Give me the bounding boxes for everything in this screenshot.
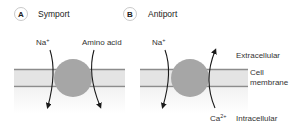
label-cell-membrane-1: Cell xyxy=(250,68,264,77)
transport-diagram: A Symport Na+ Amino acid B Antiport xyxy=(0,0,300,128)
transporter-protein-a xyxy=(54,59,92,97)
badge-b: B xyxy=(124,8,137,21)
panel-antiport: B Antiport Na+ Ca2+ xyxy=(124,8,249,124)
label-ca2: Ca2+ xyxy=(210,113,227,123)
panel-title-antiport: Antiport xyxy=(148,9,178,19)
label-intracellular: Intracellular xyxy=(236,114,278,123)
label-amino-acid: Amino acid xyxy=(82,38,122,47)
badge-a: A xyxy=(15,8,28,21)
transporter-protein-b xyxy=(171,59,209,97)
badge-a-text: A xyxy=(18,10,24,19)
panel-title-symport: Symport xyxy=(38,9,70,19)
label-na-b: Na+ xyxy=(152,37,165,47)
label-na-a: Na+ xyxy=(36,37,49,47)
badge-b-text: B xyxy=(127,10,133,19)
label-cell-membrane-2: membrane xyxy=(250,78,289,87)
label-extracellular: Extracellular xyxy=(236,51,280,60)
panel-symport: A Symport Na+ Amino acid xyxy=(14,8,125,115)
